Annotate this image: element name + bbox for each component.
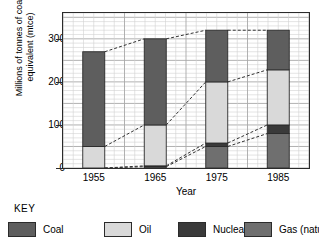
x-tick-label: 1955 <box>74 172 114 183</box>
x-axis-title: Year <box>62 186 310 197</box>
legend-swatch-icon <box>104 222 132 237</box>
trend-line-segment <box>105 167 145 168</box>
legend-label: Nuclear <box>213 224 247 235</box>
trend-line-segment <box>166 30 206 39</box>
legend-item: Gas (natural) <box>244 221 319 238</box>
trend-line-segment <box>105 39 145 52</box>
x-tick-label: 1975 <box>197 172 237 183</box>
legend-item: Nuclear <box>178 221 247 238</box>
legend-item: Oil <box>104 221 151 238</box>
trend-line-segment <box>166 82 206 125</box>
legend-key-label: KEY <box>14 203 35 214</box>
y-axis-title-line1: Millions of tonnes of coal <box>14 0 25 120</box>
legend: CoalOilNuclearGas (natural) <box>8 221 313 238</box>
legend-swatch-icon <box>244 222 272 237</box>
trend-lines-group <box>63 13 309 168</box>
legend-item: Coal <box>8 221 64 238</box>
legend-label: Coal <box>43 224 64 235</box>
plot-area <box>62 12 310 169</box>
chart-figure: Millions of tonnes of coal equivalent (m… <box>0 0 319 242</box>
trend-line-segment <box>166 146 206 166</box>
y-axis-title: Millions of tonnes of coal equivalent (m… <box>14 0 36 120</box>
legend-swatch-icon <box>8 222 36 237</box>
x-tick-label: 1965 <box>135 172 175 183</box>
trend-line-segment <box>105 125 145 147</box>
legend-label: Gas (natural) <box>279 224 319 235</box>
trend-line-segment <box>228 70 268 82</box>
y-axis-title-line2: equivalent (mtce) <box>25 0 36 120</box>
legend-label: Oil <box>139 224 151 235</box>
x-tick-label: 1985 <box>258 172 298 183</box>
trend-line-segment <box>166 143 206 166</box>
legend-swatch-icon <box>178 222 206 237</box>
